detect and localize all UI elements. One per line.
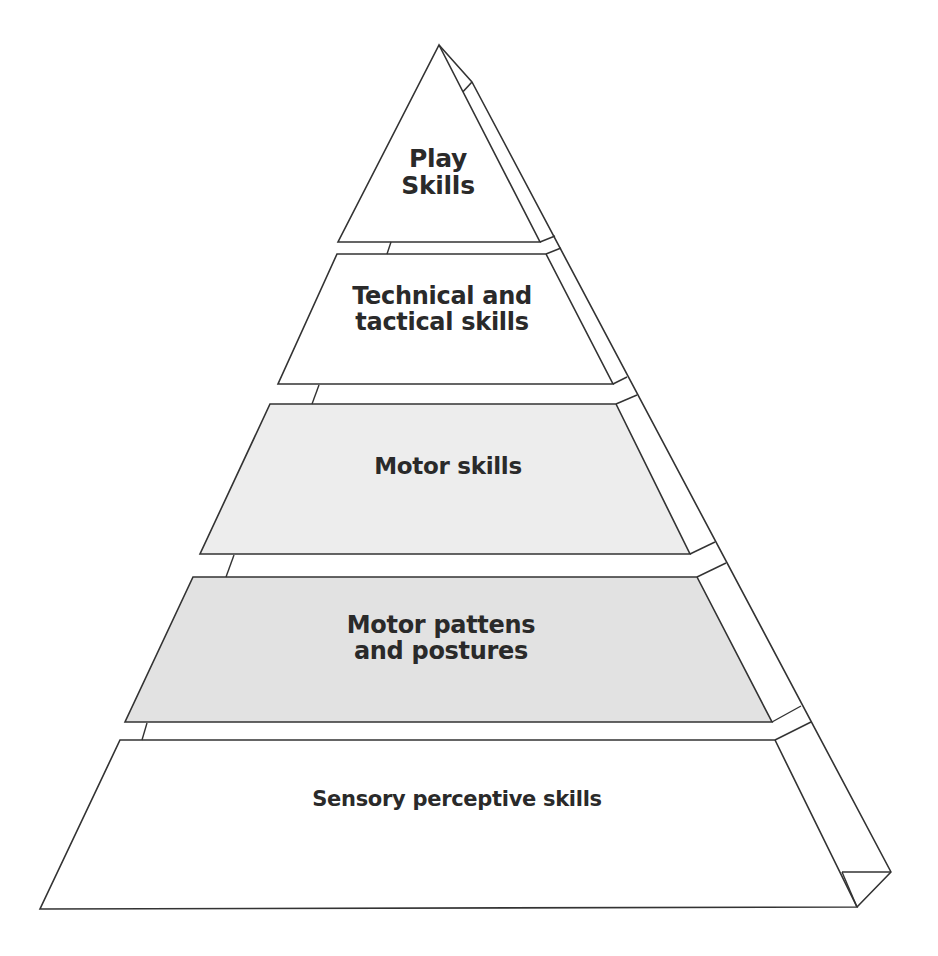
- gap-connector-right: [616, 395, 637, 404]
- label-line: Motor pattens: [347, 613, 536, 639]
- gap-connector-left: [387, 242, 391, 254]
- gap-connector-right: [697, 563, 726, 577]
- gap-connector-left: [226, 555, 234, 577]
- label-line: Play: [401, 145, 474, 172]
- gap-connector-right: [613, 377, 627, 384]
- label-play-skills: Play Skills: [401, 145, 474, 199]
- gap-connector-right: [775, 722, 811, 740]
- gap-connector-left: [312, 385, 319, 404]
- gap-connector-right: [540, 236, 555, 242]
- label-motor-patterns: Motor pattens and postures: [347, 613, 536, 665]
- label-line: tactical skills: [352, 310, 532, 336]
- gap-connector-left: [142, 723, 147, 740]
- label-sensory-perceptive: Sensory perceptive skills: [312, 788, 602, 811]
- label-line: Skills: [401, 172, 474, 199]
- gap-connector-right: [546, 248, 561, 254]
- tier-sensory-perceptive: [40, 740, 857, 909]
- label-line: Motor skills: [374, 454, 522, 479]
- label-motor-skills: Motor skills: [374, 454, 522, 479]
- label-line: Technical and: [352, 284, 532, 310]
- gap-connector-right: [690, 542, 715, 554]
- gap-connector-right: [772, 706, 801, 722]
- label-line: and postures: [347, 639, 536, 665]
- label-line: Sensory perceptive skills: [312, 788, 602, 811]
- tier-motor-skills: [200, 404, 690, 554]
- label-technical-tactical: Technical and tactical skills: [352, 284, 532, 336]
